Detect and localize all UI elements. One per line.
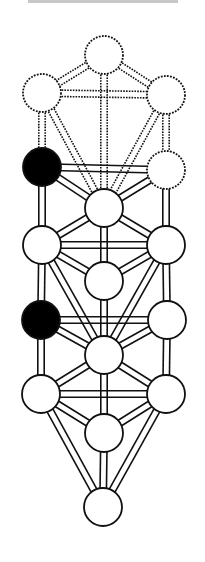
sephirah-node-n9 [85,262,123,300]
sephirah-node-n11 [148,301,186,339]
sephirah-node-n7 [23,226,61,264]
sephirah-node-n5 [147,151,185,189]
sephirah-node-n2 [23,74,61,112]
sephirah-node-n10 [22,301,60,339]
nodes-layer [22,36,186,526]
sephirah-node-n16 [84,488,122,526]
sephirah-node-n3 [147,76,185,114]
sephirah-node-n6 [85,189,123,227]
sephirah-node-n13 [22,375,60,413]
sephirah-node-n14 [147,375,185,413]
sephirah-node-n4 [23,148,61,186]
sephirah-node-n8 [147,226,185,264]
path-n1-n6 [101,55,107,208]
sephirah-node-n12 [85,336,123,374]
sephirah-node-n15 [85,414,123,452]
tree-of-life-diagram [0,0,205,562]
sephirah-node-n1 [85,36,123,74]
